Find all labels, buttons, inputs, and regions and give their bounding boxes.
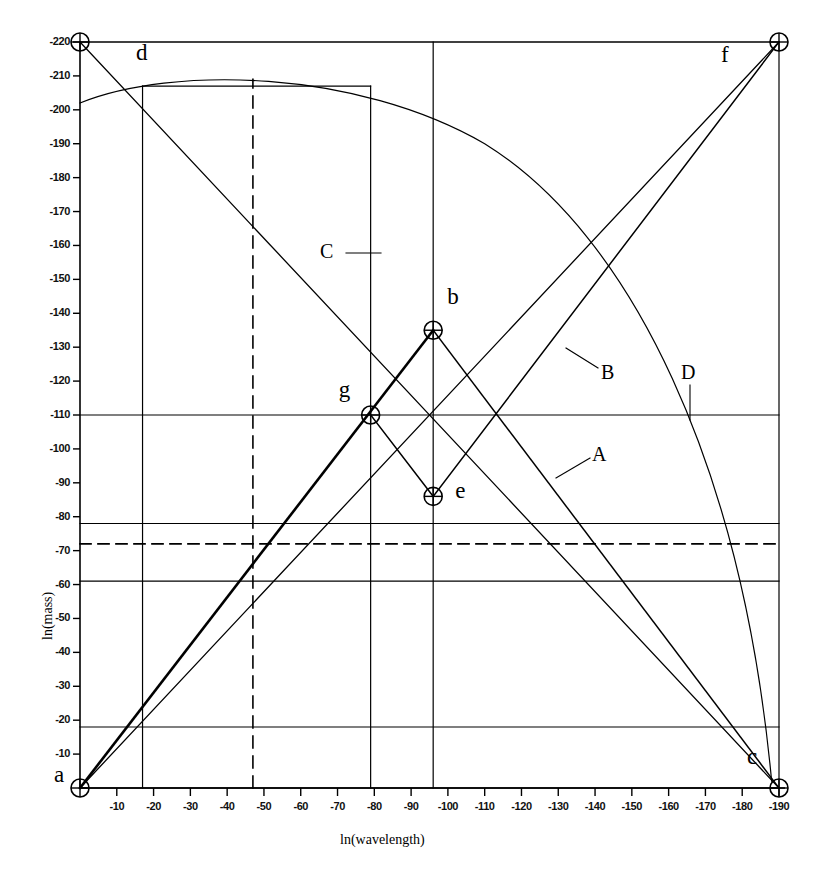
x-tick-label: -90 — [391, 800, 431, 812]
y-tick-label: -200 — [22, 103, 70, 115]
annotation-label-A: A — [592, 443, 606, 466]
y-tick-label: -80 — [22, 510, 70, 522]
point-label-g: g — [339, 377, 351, 403]
x-tick-label: -110 — [465, 800, 505, 812]
x-tick-label: -70 — [318, 800, 358, 812]
x-tick-label: -50 — [244, 800, 284, 812]
y-tick-label: -210 — [22, 69, 70, 81]
x-tick-label: -160 — [649, 800, 689, 812]
point-label-e: e — [455, 478, 465, 504]
heavy-line-a-b — [80, 330, 433, 788]
x-tick-label: -30 — [170, 800, 210, 812]
x-tick-label: -190 — [759, 800, 799, 812]
y-tick-label: -140 — [22, 306, 70, 318]
y-tick-label: -70 — [22, 544, 70, 556]
y-tick-label: -120 — [22, 374, 70, 386]
x-tick-label: -20 — [134, 800, 174, 812]
segment-g-e — [371, 415, 434, 496]
y-tick-label: -50 — [22, 611, 70, 623]
data-point-marker-a[interactable] — [71, 779, 89, 797]
chart-figure: ln(mass) ln(wavelength) -10-20-30-40-50-… — [0, 0, 831, 881]
data-point-marker-d[interactable] — [71, 33, 89, 51]
x-tick-label: -170 — [685, 800, 725, 812]
y-tick-label: -60 — [22, 578, 70, 590]
point-label-f: f — [721, 42, 729, 68]
y-tick-label: -220 — [22, 35, 70, 47]
y-tick-label: -20 — [22, 713, 70, 725]
segment-e-f — [433, 42, 779, 496]
y-tick-label: -190 — [22, 137, 70, 149]
point-label-d: d — [136, 40, 148, 66]
arc-curve — [80, 80, 772, 781]
x-axis-title: ln(wavelength) — [340, 832, 425, 848]
point-label-c: c — [747, 744, 757, 770]
leader-line-A — [556, 458, 590, 478]
x-tick-label: -60 — [281, 800, 321, 812]
x-tick-label: -100 — [428, 800, 468, 812]
y-tick-label: -160 — [22, 238, 70, 250]
y-tick-label: -30 — [22, 679, 70, 691]
x-tick-label: -150 — [612, 800, 652, 812]
point-label-b: b — [447, 284, 459, 310]
x-tick-label: -80 — [354, 800, 394, 812]
y-tick-label: -130 — [22, 340, 70, 352]
data-point-marker-b[interactable] — [424, 321, 442, 339]
y-tick-label: -110 — [22, 408, 70, 420]
annotation-label-D: D — [681, 361, 695, 384]
annotation-label-C: C — [320, 240, 333, 263]
point-label-a: a — [54, 762, 64, 788]
x-tick-label: -130 — [538, 800, 578, 812]
x-tick-label: -140 — [575, 800, 615, 812]
leader-line-B — [566, 348, 598, 368]
x-tick-label: -10 — [97, 800, 137, 812]
x-tick-label: -40 — [207, 800, 247, 812]
y-tick-label: -40 — [22, 645, 70, 657]
data-point-marker-c[interactable] — [770, 779, 788, 797]
data-point-marker-e[interactable] — [424, 487, 442, 505]
annotation-label-B: B — [601, 361, 614, 384]
chart-canvas — [0, 0, 831, 881]
y-tick-label: -150 — [22, 272, 70, 284]
data-point-marker-g[interactable] — [362, 406, 380, 424]
x-tick-label: -120 — [501, 800, 541, 812]
y-tick-label: -90 — [22, 476, 70, 488]
y-tick-label: -170 — [22, 205, 70, 217]
y-tick-label: -100 — [22, 442, 70, 454]
segment-b-c — [433, 330, 779, 788]
x-tick-label: -180 — [722, 800, 762, 812]
y-tick-label: -10 — [22, 747, 70, 759]
data-point-marker-f[interactable] — [770, 33, 788, 51]
y-tick-label: -180 — [22, 171, 70, 183]
